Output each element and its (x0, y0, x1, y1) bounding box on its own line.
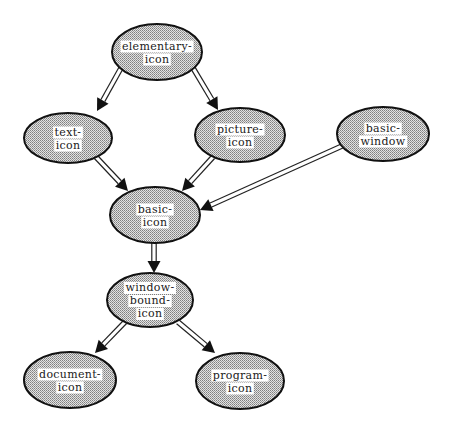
node-label: icon (145, 53, 170, 66)
node-elementary-icon[interactable]: elementary-icon (112, 24, 202, 80)
edge-elementary-icon-to-text-icon (97, 67, 123, 111)
node-program-icon[interactable]: program-icon (196, 353, 284, 409)
arrowhead-icon (115, 178, 128, 191)
edge-shaft (191, 69, 210, 101)
edge-shaft (98, 155, 122, 180)
node-label: icon (56, 139, 81, 152)
edge-shaft (94, 159, 118, 184)
edge-shaft (105, 69, 123, 102)
edge-window-bound-icon-to-document-icon (95, 320, 127, 353)
node-label: icon (143, 216, 168, 229)
edge-shaft (192, 158, 215, 183)
node-label: document- (39, 368, 101, 381)
node-basic-icon[interactable]: basic-icon (110, 187, 200, 243)
edge-shaft (188, 156, 211, 181)
node-label: program- (213, 369, 267, 382)
inheritance-diagram: elementary-icontext-iconpicture-iconbasi… (0, 0, 453, 432)
nodes-layer: elementary-icontext-iconpicture-iconbasi… (24, 24, 429, 409)
node-label: window (361, 135, 406, 148)
edge-shaft (102, 320, 124, 342)
node-basic-window[interactable]: basic-window (337, 107, 429, 161)
edge-shaft (105, 324, 127, 346)
arrowhead-icon (200, 199, 214, 211)
edge-window-bound-icon-to-program-icon (177, 320, 215, 353)
node-label: icon (228, 382, 253, 395)
edge-text-icon-to-basic-icon (94, 155, 128, 191)
node-label: bound- (130, 294, 170, 307)
node-text-icon[interactable]: text-icon (24, 113, 112, 163)
node-label: picture- (217, 123, 263, 136)
node-label: text- (55, 126, 82, 139)
node-label: icon (138, 307, 163, 320)
node-window-bound-icon[interactable]: window-bound-icon (107, 273, 193, 327)
edge-picture-icon-to-basic-icon (182, 156, 215, 191)
edge-shaft (101, 67, 119, 100)
arrowhead-icon (148, 261, 161, 273)
node-label: basic- (366, 122, 400, 135)
node-picture-icon[interactable]: picture-icon (195, 108, 285, 162)
node-label: elementary- (122, 40, 192, 53)
edge-shaft (179, 320, 207, 343)
node-label: icon (228, 136, 253, 149)
arrowhead-icon (95, 340, 108, 353)
arrowhead-icon (182, 178, 195, 191)
node-document-icon[interactable]: document-icon (24, 352, 116, 408)
arrowhead-icon (97, 97, 109, 111)
edge-shaft (195, 67, 214, 99)
node-label: icon (58, 381, 83, 394)
node-label: basic- (138, 203, 172, 216)
edge-elementary-icon-to-picture-icon (191, 67, 218, 110)
edge-basic-icon-to-window-bound-icon (148, 243, 161, 273)
edge-shaft (177, 324, 205, 347)
node-label: window- (126, 281, 175, 294)
